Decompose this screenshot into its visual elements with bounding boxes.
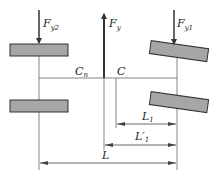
c-label: C	[117, 65, 126, 78]
left-rear-tire	[10, 100, 68, 112]
l1-label: L1	[141, 110, 154, 124]
diagram-canvas: Fy2 Fy Fy1 Cn C L1 L′1 L	[0, 0, 213, 176]
fy2-label: Fy2	[42, 17, 60, 32]
l1prime-label: L′1	[134, 130, 149, 144]
left-front-tire	[10, 44, 68, 56]
fy1-label: Fy1	[176, 17, 193, 32]
cn-label: Cn	[75, 65, 88, 79]
right-front-tire	[149, 41, 208, 62]
fy-label: Fy	[108, 17, 122, 32]
right-rear-tire	[149, 92, 208, 113]
l-label: L	[101, 149, 109, 162]
